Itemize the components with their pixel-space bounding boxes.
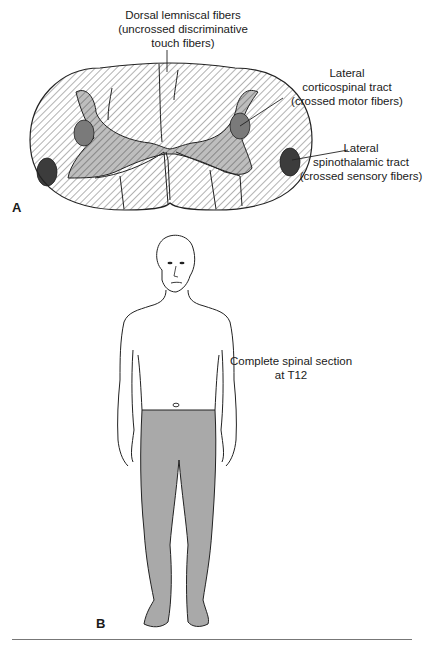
label-line: spinothalamic tract (296, 155, 426, 169)
waist-right (215, 355, 219, 410)
navel (173, 403, 179, 407)
spinal-cord-section (30, 63, 312, 210)
lateral-corticospinal-label: Lateral corticospinal tract (crossed mot… (282, 66, 412, 108)
label-line: (crossed motor fibers) (282, 94, 412, 108)
label-line: touch fibers) (118, 36, 248, 50)
label-line: Complete spinal section (226, 354, 356, 368)
left-inner-arm (131, 350, 134, 462)
left-spinothalamic-tract (37, 158, 57, 186)
bottom-rule (12, 639, 412, 640)
label-line: (crossed sensory fibers) (296, 169, 426, 183)
head (157, 235, 195, 292)
label-line: (uncrossed discriminative (118, 22, 248, 36)
lesion-level-label: Complete spinal section at T12 (226, 354, 356, 382)
label-line: Lateral (296, 141, 426, 155)
panel-letter-b: B (96, 616, 105, 631)
human-figure (118, 235, 237, 627)
label-line: Dorsal lemniscal fibers (118, 8, 248, 22)
lateral-spinothalamic-label: Lateral spinothalamic tract (crossed sen… (296, 141, 426, 183)
label-line: Lateral (282, 66, 412, 80)
left-corticospinal-tract (74, 120, 94, 146)
dorsal-lemniscal-label: Dorsal lemniscal fibers (uncrossed discr… (118, 8, 248, 50)
left-eye (168, 262, 173, 265)
right-inner-arm (221, 350, 224, 462)
affected-region-below-t12 (141, 410, 216, 627)
label-line: corticospinal tract (282, 80, 412, 94)
panel-letter-a: A (12, 200, 21, 215)
label-line: at T12 (226, 368, 356, 382)
right-eye (180, 262, 185, 265)
waist-left (138, 355, 142, 410)
